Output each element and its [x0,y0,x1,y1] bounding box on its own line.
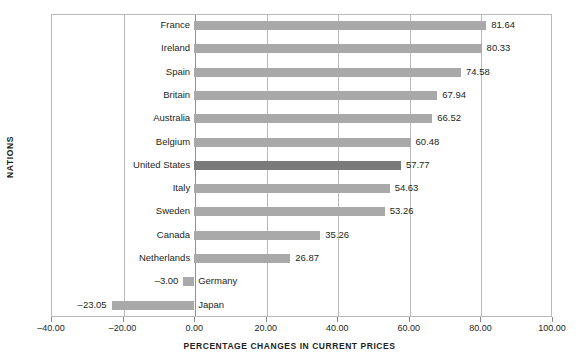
category-label-australia: Australia [30,111,190,124]
category-label-germany: Germany [198,274,358,287]
tick-label--40: –40.00 [21,323,81,333]
value-label-sweden: 53.26 [390,204,450,217]
category-label-italy: Italy [30,181,190,194]
bar-row: Ireland80.33 [0,37,579,61]
tick-label-40: 40.00 [307,323,367,333]
bar-row: Japan–23.05 [0,294,579,318]
bar-row: Germany–3.00 [0,270,579,294]
tick-mark-60 [409,317,410,322]
bar-row: Spain74.58 [0,61,579,85]
bar-japan [112,301,194,310]
tick-mark--40 [51,317,52,322]
tick-label-0: 0.00 [164,323,224,333]
value-label-germany: –3.00 [118,274,178,287]
bar-sweden [194,207,385,216]
bar-italy [194,184,389,193]
bar-australia [194,114,432,123]
value-label-japan: –23.05 [47,298,107,311]
tick-label-20: 20.00 [236,323,296,333]
x-axis-title: PERCENTAGE CHANGES IN CURRENT PRICES [0,341,579,351]
category-label-britain: Britain [30,88,190,101]
bar-row: Sweden53.26 [0,200,579,224]
category-label-canada: Canada [30,228,190,241]
tick-label-80: 80.00 [450,323,510,333]
value-label-united-states: 57.77 [406,158,466,171]
bar-france [194,21,486,30]
bar-netherlands [194,254,290,263]
value-label-netherlands: 26.87 [295,251,355,264]
value-label-britain: 67.94 [442,88,502,101]
tick-mark--20 [123,317,124,322]
bar-belgium [194,138,410,147]
tick-mark-20 [266,317,267,322]
bar-spain [194,68,461,77]
category-label-spain: Spain [30,65,190,78]
category-label-united-states: United States [30,158,190,171]
value-label-belgium: 60.48 [416,135,476,148]
bar-row: Canada35.26 [0,224,579,248]
tick-label-100: 100.00 [522,323,579,333]
bar-row: Belgium60.48 [0,131,579,155]
bar-britain [194,91,437,100]
bar-chart: NATIONS –40.00–20.000.0020.0040.0060.008… [0,0,579,359]
value-label-italy: 54.63 [395,181,455,194]
value-label-spain: 74.58 [466,65,526,78]
category-label-netherlands: Netherlands [30,251,190,264]
category-label-japan: Japan [198,298,358,311]
bar-row: United States57.77 [0,154,579,178]
value-label-canada: 35.26 [325,228,385,241]
value-label-ireland: 80.33 [487,41,547,54]
value-label-australia: 66.52 [437,111,497,124]
tick-mark-100 [552,317,553,322]
category-label-sweden: Sweden [30,204,190,217]
bar-united-states [194,161,401,170]
value-label-france: 81.64 [491,18,551,31]
tick-label--20: –20.00 [93,323,153,333]
bar-row: Australia66.52 [0,107,579,131]
tick-mark-40 [337,317,338,322]
bar-canada [194,231,320,240]
bar-germany [183,277,194,286]
bar-row: Britain67.94 [0,84,579,108]
bar-row: Netherlands26.87 [0,247,579,271]
tick-mark-0 [194,317,195,322]
bar-row: Italy54.63 [0,177,579,201]
category-label-france: France [30,18,190,31]
category-label-belgium: Belgium [30,135,190,148]
tick-label-60: 60.00 [379,323,439,333]
category-label-ireland: Ireland [30,41,190,54]
tick-mark-80 [480,317,481,322]
bar-ireland [194,44,481,53]
bar-row: France81.64 [0,14,579,38]
